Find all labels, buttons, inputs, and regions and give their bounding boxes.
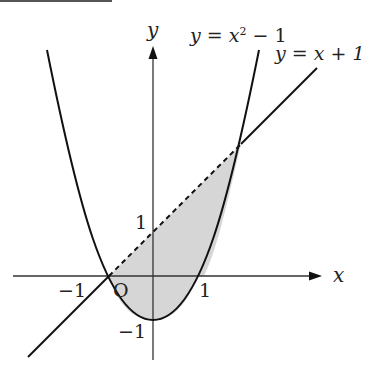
y-axis-label: y	[147, 18, 158, 42]
origin-label: O	[113, 279, 129, 301]
tick-y-pos1: 1	[135, 211, 147, 233]
parabola-label-base: x	[229, 24, 240, 46]
tick-x-neg1: −1	[58, 279, 86, 301]
parabola-label-lhs: y	[190, 24, 201, 46]
shaded-region-fill	[109, 144, 241, 320]
parabola-label-eq: =	[201, 24, 229, 46]
y-axis-arrow-icon	[149, 46, 158, 59]
tick-x-pos1: 1	[199, 279, 211, 301]
x-axis-arrow-icon	[309, 272, 322, 281]
line-label: y = x + 1	[275, 42, 365, 64]
x-axis-label: x	[333, 263, 344, 287]
parabola-label: y = x2 − 1	[190, 24, 287, 46]
tick-y-neg1: −1	[118, 320, 146, 342]
